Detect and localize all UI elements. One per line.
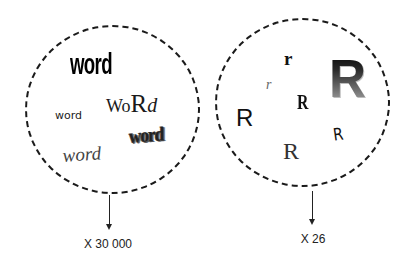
left-multiplier-label: X 30 000 xyxy=(84,237,132,251)
left-arrow-shaft xyxy=(109,195,110,225)
word-italic-serif: word xyxy=(62,143,102,165)
letter-R-bold-condensed: R xyxy=(297,91,308,113)
right-multiplier-label: X 26 xyxy=(301,232,326,246)
right-arrow-down-icon xyxy=(309,219,315,225)
letter-r-bold-serif: r xyxy=(284,49,292,68)
letter-r-small-italic: r xyxy=(266,78,271,92)
letter-R-sans: R xyxy=(236,106,253,130)
letter-R-gradient-large: R xyxy=(329,51,366,105)
word-plain-sans: word xyxy=(55,110,82,121)
word-part-d: d xyxy=(147,94,157,116)
word-part-w: W xyxy=(106,96,122,116)
letter-R-handwritten: R xyxy=(332,126,344,144)
left-arrow-down-icon xyxy=(106,224,112,230)
word-mixed-case: WoRd xyxy=(106,91,157,116)
letter-R-serif: R xyxy=(283,139,299,163)
right-arrow-shaft xyxy=(312,191,313,220)
word-part-o: o xyxy=(122,96,131,116)
word-part-r: R xyxy=(131,90,148,117)
word-distorted: word xyxy=(129,123,163,146)
word-bold-condensed: word xyxy=(70,49,112,79)
